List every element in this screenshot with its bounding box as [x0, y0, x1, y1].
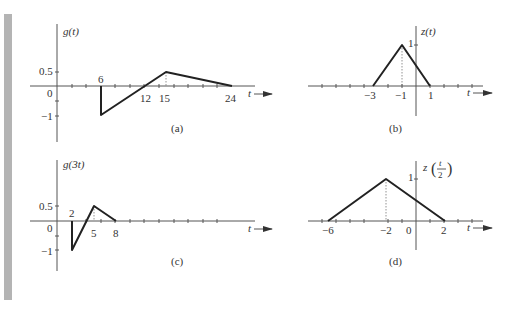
- ytick: 0.5: [39, 65, 53, 77]
- caption: (a): [171, 122, 184, 135]
- signal-z-half: [328, 179, 445, 221]
- ytick: 0: [47, 222, 53, 234]
- xlabel: t: [248, 222, 252, 234]
- xtick: 1: [428, 89, 434, 101]
- xtick: 6: [98, 73, 104, 85]
- ytick: 1: [408, 37, 414, 49]
- xtick: 15: [159, 92, 171, 104]
- panel-a: g(t) 0.5 0 −1 6 12 15 24 t (a): [30, 24, 272, 142]
- xlabel: t: [248, 87, 252, 99]
- ytick: −1: [41, 110, 53, 122]
- figure: g(t) 0.5 0 −1 6 12 15 24 t (a) z(t) 1 −3…: [0, 0, 511, 312]
- xtick: −2: [380, 224, 392, 236]
- ytick: 1: [408, 171, 414, 183]
- xtick: 8: [113, 227, 119, 239]
- xtick: −3: [364, 89, 376, 101]
- xtick: 5: [91, 227, 97, 239]
- xtick: 0: [406, 224, 412, 236]
- xtick: 2: [69, 207, 75, 219]
- ylabel: g(3t): [63, 158, 85, 171]
- xtick: 12: [140, 92, 151, 104]
- xtick: −6: [322, 224, 334, 236]
- xtick: 24: [225, 92, 237, 104]
- caption: (d): [389, 255, 402, 268]
- signal-z: [373, 45, 430, 86]
- ytick: −1: [41, 245, 53, 257]
- ylabel: z: [422, 161, 428, 173]
- panel-d: z ( t 2 ) 1 −6 −2 0 2 t (d): [308, 158, 492, 268]
- ytick: 0: [47, 87, 53, 99]
- xtick: 2: [441, 224, 447, 236]
- ylabel-num: t: [439, 158, 442, 168]
- xlabel: t: [467, 221, 471, 233]
- caption: (c): [171, 255, 184, 268]
- svg-text:(: (: [431, 160, 436, 178]
- xtick: −1: [395, 89, 407, 101]
- svg-text:): ): [447, 160, 452, 178]
- xlabel: t: [467, 86, 471, 98]
- panel-c: g(3t) 0.5 0 −1 2 5 8 t (c): [30, 158, 272, 271]
- ylabel: z(t): [420, 25, 436, 38]
- ytick: 0.5: [39, 200, 53, 212]
- ylabel: g(t): [63, 25, 79, 38]
- panel-b: z(t) 1 −3 −1 1 t (b): [308, 25, 492, 135]
- ylabel-den: 2: [438, 170, 443, 180]
- caption: (b): [389, 122, 402, 135]
